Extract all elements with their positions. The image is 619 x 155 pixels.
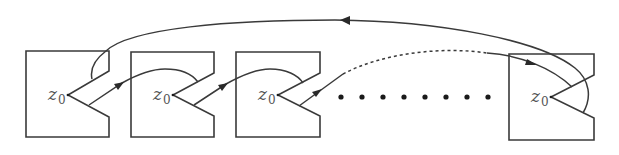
label-main: z (48, 84, 57, 104)
region-3 (236, 52, 320, 137)
label-main: z (258, 84, 267, 104)
arrowhead-icon (525, 59, 537, 65)
region-2 (131, 52, 214, 137)
base-point-label-3: z0 (258, 86, 276, 103)
base-point-4 (550, 96, 553, 99)
arrowhead-icon (340, 16, 350, 25)
region-4 (509, 54, 594, 140)
region-1 (26, 51, 109, 137)
arrowhead-icon (114, 82, 124, 90)
base-point-label-1: z0 (48, 86, 66, 103)
base-point-1 (67, 94, 70, 97)
base-point-2 (172, 94, 175, 97)
label-main: z (531, 86, 540, 106)
base-point-label-2: z0 (153, 86, 171, 103)
diagram-canvas (0, 0, 619, 155)
base-point-label-4: z0 (531, 88, 549, 105)
dashed-path-segment (343, 51, 487, 74)
ellipsis-dots (338, 94, 490, 99)
label-subscript: 0 (541, 95, 549, 109)
base-point-3 (277, 94, 280, 97)
label-subscript: 0 (268, 93, 276, 107)
label-main: z (153, 84, 162, 104)
label-subscript: 0 (163, 93, 171, 107)
arrowhead-icon (218, 83, 228, 91)
label-subscript: 0 (58, 93, 66, 107)
